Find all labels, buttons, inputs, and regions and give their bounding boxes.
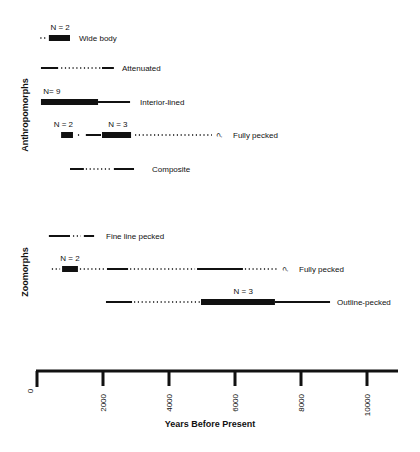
row-label: Wide body (79, 34, 117, 43)
axis-tick (102, 371, 105, 386)
row-label: Outline-pecked (337, 298, 391, 307)
segment-thick (61, 132, 73, 138)
tick-label: 6000 (231, 393, 240, 411)
segment-solid (102, 67, 114, 69)
segment-solid (275, 301, 330, 303)
timeline-row: ?N = 2Fully pecked (52, 254, 344, 274)
segment-solid (86, 134, 101, 136)
tick-label: 0 (26, 388, 35, 393)
row-label: Attenuated (122, 64, 161, 73)
axis-tick (36, 371, 39, 387)
segment-solid (49, 235, 70, 237)
sample-size-label: N= 9 (43, 87, 61, 96)
uncertain-mark: ? (215, 131, 225, 140)
segment-solid (70, 168, 84, 170)
axis-tick (234, 371, 237, 386)
segment-thick (49, 35, 70, 41)
segment-solid (84, 235, 94, 237)
segment-thick (62, 266, 78, 272)
segment-thick (102, 132, 131, 138)
timeline-row: Composite (70, 165, 191, 174)
row-label: Composite (152, 165, 191, 174)
sample-size-label: N = 2 (60, 254, 80, 263)
row-label: Interior-lined (140, 98, 184, 107)
axis-line (36, 370, 398, 373)
segment-thick (201, 299, 275, 305)
groups-layer: AnthropomorphsZoomorphs (20, 78, 30, 297)
row-label: Fully pecked (233, 131, 278, 140)
rows-layer: N = 2Wide bodyAttenuatedN= 9Interior-lin… (40, 23, 391, 307)
group-label: Zoomorphs (20, 247, 30, 297)
x-axis-label: Years Before Present (165, 419, 256, 429)
x-axis: 0200040006000800010000 (26, 370, 398, 417)
segment-solid (106, 301, 132, 303)
timeline-row: ?N = 2N = 3Fully pecked (54, 120, 278, 140)
sample-size-label: N = 3 (108, 120, 128, 129)
segment-thick (41, 99, 98, 105)
timeline-row: N= 9Interior-lined (41, 87, 185, 107)
segment-solid (98, 101, 130, 103)
row-label: Fine line pecked (106, 232, 164, 241)
tick-label: 4000 (165, 393, 174, 411)
segment-solid (197, 268, 243, 270)
axis-tick (168, 371, 171, 386)
timeline-row: Fine line pecked (49, 232, 164, 241)
axis-tick (366, 371, 369, 386)
segment-solid (41, 67, 58, 69)
timeline-chart: AnthropomorphsZoomorphs N = 2Wide bodyAt… (0, 0, 420, 452)
segment-solid (107, 268, 128, 270)
timeline-row: N = 3Outline-pecked (106, 287, 391, 307)
sample-size-label: N = 2 (50, 23, 70, 32)
axis-tick (300, 371, 303, 386)
sample-size-label: N = 3 (234, 287, 254, 296)
tick-label: 10000 (363, 393, 372, 416)
segment-solid (114, 168, 134, 170)
tick-label: 2000 (99, 393, 108, 411)
tick-label: 8000 (297, 393, 306, 411)
group-label: Anthropomorphs (20, 78, 30, 152)
timeline-row: Attenuated (41, 64, 161, 73)
row-label: Fully pecked (299, 265, 344, 274)
sample-size-label: N = 2 (54, 120, 74, 129)
uncertain-mark: ? (281, 265, 291, 274)
timeline-row: N = 2Wide body (40, 23, 116, 43)
